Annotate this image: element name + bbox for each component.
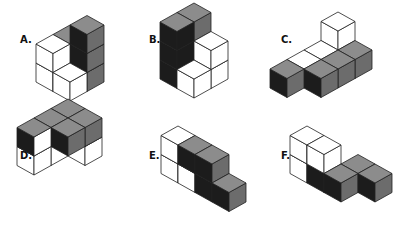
figure-c <box>270 12 372 98</box>
figure-label-c: C. <box>281 34 292 45</box>
figure-f <box>290 126 392 202</box>
figure-a <box>36 16 104 102</box>
figure-d <box>17 99 102 175</box>
figure-label-b: B. <box>149 34 160 45</box>
figure-e <box>161 126 246 212</box>
figure-label-d: D. <box>20 150 32 161</box>
figure-label-f: F. <box>281 150 290 161</box>
figure-label-a: A. <box>20 34 32 45</box>
cube-figures-svg <box>0 0 396 236</box>
figure-b <box>160 3 228 98</box>
figure-canvas: A. B. C. D. E. F. <box>0 0 396 236</box>
figure-label-e: E. <box>149 150 160 161</box>
